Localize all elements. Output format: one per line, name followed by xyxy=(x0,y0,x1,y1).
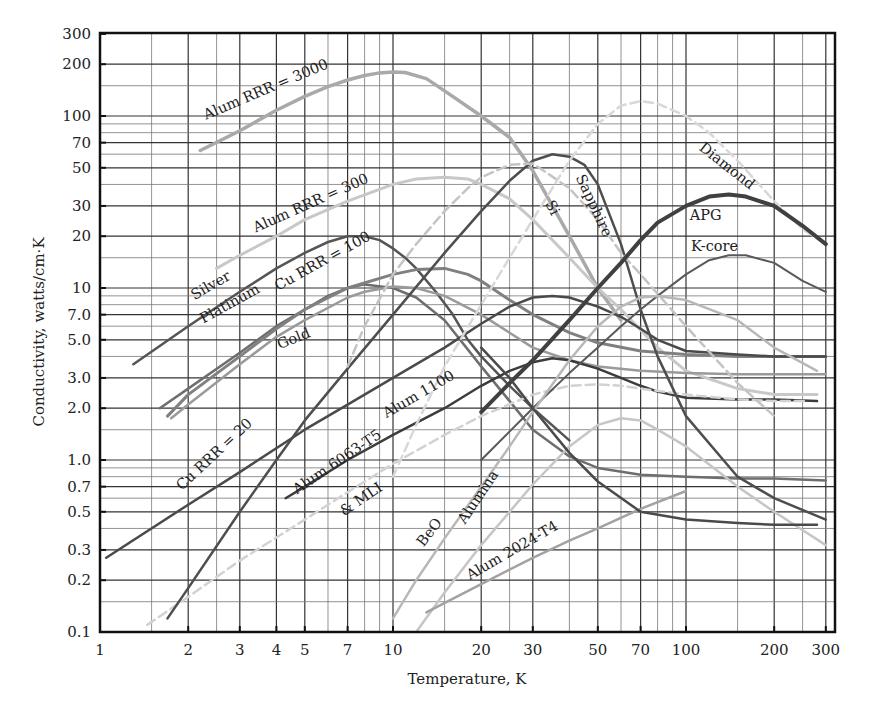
x-tick-label: 5 xyxy=(300,641,310,659)
curve-label: Alum RRR = 300 xyxy=(250,170,371,236)
y-tick-label: 1.0 xyxy=(67,451,91,469)
curve-label: Cu RRR = 20 xyxy=(173,415,255,493)
curve-label: Gold xyxy=(275,324,313,352)
y-tick-label: 0.3 xyxy=(67,541,91,559)
y-tick-label: 200 xyxy=(62,55,91,73)
y-tick-label: 10 xyxy=(72,279,91,297)
curve-label: K-core xyxy=(691,238,738,254)
y-tick-label: 20 xyxy=(72,227,91,245)
curve-alum-rrr-3000 xyxy=(200,72,621,320)
y-tick-label: 30 xyxy=(72,197,91,215)
y-axis-title: Conductivity, watts/cm·K xyxy=(30,237,48,427)
y-tick-label: 50 xyxy=(72,159,91,177)
x-tick-label: 2 xyxy=(183,641,193,659)
x-tick-label: 100 xyxy=(672,641,701,659)
curve-label: APG xyxy=(689,207,722,223)
thermal-conductivity-chart: Alum RRR = 3000Alum RRR = 300SilverPlati… xyxy=(0,0,890,711)
y-tick-label: 0.1 xyxy=(67,623,91,641)
x-tick-label: 20 xyxy=(472,641,491,659)
y-tick-label: 300 xyxy=(62,25,91,43)
curve-labels: Alum RRR = 3000Alum RRR = 300SilverPlati… xyxy=(173,56,758,584)
curve-label: Alum RRR = 3000 xyxy=(200,56,330,123)
y-tick-label: 0.5 xyxy=(67,503,91,521)
x-tick-label: 4 xyxy=(272,641,282,659)
y-tick-label: 3.0 xyxy=(67,369,91,387)
y-tick-label: 70 xyxy=(72,134,91,152)
y-tick-label: 0.7 xyxy=(67,478,91,496)
curve-platinum xyxy=(160,284,826,480)
x-tick-label: 50 xyxy=(588,641,607,659)
y-tick-label: 2.0 xyxy=(67,399,91,417)
x-tick-label: 200 xyxy=(760,641,789,659)
y-tick-label: 0.2 xyxy=(67,571,91,589)
y-tick-label: 100 xyxy=(62,107,91,125)
x-tick-label: 3 xyxy=(235,641,245,659)
x-tick-label: 30 xyxy=(523,641,542,659)
x-axis-title: Temperature, K xyxy=(407,670,527,688)
curve-label: Alumina xyxy=(454,467,502,527)
x-tick-label: 300 xyxy=(811,641,840,659)
curve-label: Alum 1100 xyxy=(379,367,457,421)
x-tick-label: 7 xyxy=(343,641,353,659)
y-tick-label: 5.0 xyxy=(67,331,91,349)
y-tick-label: 7.0 xyxy=(67,306,91,324)
x-tick-label: 1 xyxy=(95,641,105,659)
x-tick-label: 70 xyxy=(631,641,650,659)
x-tick-label: 10 xyxy=(383,641,402,659)
